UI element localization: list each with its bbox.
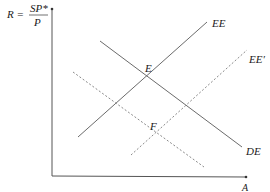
x-axis-arrow-icon: [245, 176, 248, 179]
diagram-canvas: R = SP* P EE EE′ DE E F A: [0, 0, 270, 192]
x-axis-label: A: [241, 182, 249, 192]
curve-ee: [78, 22, 207, 137]
label-ee: EE: [211, 17, 226, 29]
curve-de: [100, 41, 242, 147]
y-axis-label-lhs: R =: [6, 8, 24, 20]
label-de: DE: [245, 145, 261, 157]
x-axis: [52, 176, 246, 177]
point-e-label: E: [144, 62, 152, 74]
label-ee-prime: EE′: [248, 53, 265, 65]
y-axis-label-denominator: P: [33, 16, 41, 28]
y-axis-arrow-icon: [51, 8, 54, 11]
y-axis-label-numerator: SP*: [30, 2, 48, 14]
point-f-label: F: [149, 120, 157, 132]
curve-de-prime: [73, 72, 204, 167]
